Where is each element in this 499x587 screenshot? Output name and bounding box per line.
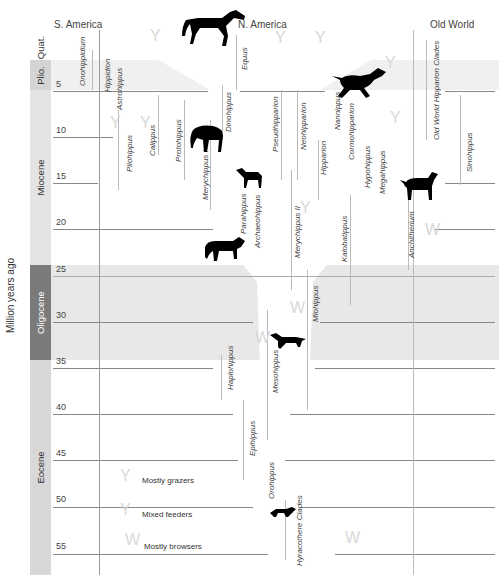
epoch-plio-label: Plio. (30, 60, 51, 90)
genus-haplohippus: Haplohippus (226, 346, 235, 390)
lineage-onohippidium (92, 50, 93, 90)
horse-nannippus-icon (330, 66, 388, 100)
epoch-eocene-label: Eocene (30, 360, 51, 575)
legend-grazer-icon: Y (120, 468, 131, 484)
gridline-5 (53, 91, 208, 92)
lineage-haplohippus (221, 355, 222, 400)
lineage-protohippus (184, 100, 185, 180)
lineage-calippus (158, 95, 159, 155)
gridline-40b (290, 414, 495, 415)
horse-mesohippus-icon (268, 331, 308, 351)
gridline-20 (53, 229, 213, 230)
region-s-america: S. America (54, 19, 102, 30)
genus-hipparion: Hipparion (319, 141, 328, 175)
genus-parahippus: Parahippus (239, 194, 248, 234)
tick-5: 5 (56, 79, 61, 89)
genus-miohippus: Miohippus (311, 286, 320, 322)
lineage-epihippus (243, 400, 244, 480)
legend-browser-icon: W (125, 532, 140, 548)
genus-astrohippus: Astrohippus (115, 68, 124, 110)
gridline-5b (240, 91, 325, 92)
genus-anchitherium: Anchitherium (407, 211, 416, 258)
epoch-oligocene-label: Oligocene (30, 265, 51, 360)
legend-mixed-icon: Y (120, 502, 131, 518)
genus-hypohippus: Hypohippus (363, 146, 372, 188)
gridline-15 (53, 183, 98, 184)
genus-sinohippus: Sinohippus (465, 132, 474, 172)
tick-50: 50 (56, 494, 66, 504)
lineage-merychippus2 (291, 170, 292, 290)
genus-kalobatippus: Kalobatippus (340, 216, 349, 262)
gridline-25 (53, 276, 495, 277)
mixed-feeder-icon: Y (390, 110, 401, 126)
tick-20: 20 (56, 217, 66, 227)
horse-hypohippus-icon (398, 170, 440, 202)
genus-hippidion: Hippidion (103, 59, 112, 92)
legend-mixed: Mixed feeders (142, 510, 192, 519)
lineage-kalobatippus (350, 195, 351, 305)
gridline-55b (335, 554, 495, 555)
genus-protohippus: Protohippus (174, 119, 183, 162)
genus-onohippidium: Onohippidium (78, 37, 87, 86)
divider-s-america (99, 30, 100, 575)
lineage-sinohippus (460, 95, 461, 185)
epoch-quat-label: Quat. (30, 35, 51, 60)
grazer-icon: Y (315, 30, 326, 46)
gridline-10 (53, 137, 113, 138)
gridline-30b (320, 322, 495, 323)
gridline-5c (445, 91, 495, 92)
genus-megahippus: Megahippus (378, 150, 387, 194)
lineage-neohipparion (297, 90, 298, 180)
genus-equus: Equus (240, 47, 249, 70)
genus-epihippus: Epihippus (248, 421, 257, 456)
genus-merychippus1: Merychippus I (201, 150, 210, 200)
tick-35: 35 (56, 356, 66, 366)
grazer-icon: Y (150, 28, 161, 44)
genus-cormohipparion: Cormohipparion (347, 103, 356, 160)
gridline-40 (53, 414, 233, 415)
horse-archaeohippus-icon (203, 233, 247, 263)
horse-hyracothere-icon (268, 505, 298, 519)
browser-icon: W (425, 222, 440, 238)
tick-15: 15 (56, 171, 66, 181)
horse-merychippus-icon (189, 124, 227, 154)
gridline-45 (53, 460, 238, 461)
browser-icon: W (345, 530, 360, 546)
genus-mesohippus: Mesohippus (271, 350, 280, 393)
horse-equus-icon (178, 6, 248, 48)
divider-old-world (413, 30, 414, 575)
grazer-icon: Y (275, 30, 286, 46)
epoch-miocene-label: Miocene (30, 90, 51, 265)
genus-owhc: Old World Hipparion Clades (432, 41, 441, 140)
tick-45: 45 (56, 448, 66, 458)
tick-10: 10 (56, 125, 66, 135)
gridline-45b (285, 460, 495, 461)
gridline-30 (53, 322, 253, 323)
lineage-owhc (426, 40, 427, 140)
gridline-50 (53, 507, 253, 508)
gridline-15b (445, 183, 495, 184)
genus-neohipparion: Neohipparion (299, 102, 308, 150)
horse-parahippus-icon (234, 166, 264, 190)
grazer-icon: Y (140, 115, 151, 131)
gridline-35 (53, 368, 213, 369)
genus-pliohippus: Pliohippus (125, 135, 134, 172)
genus-orohippus: Orohippus (267, 462, 276, 499)
browser-icon: W (290, 300, 305, 316)
genus-pseudhipparion: Pseudhipparion (271, 96, 280, 152)
tick-30: 30 (56, 310, 66, 320)
tick-40: 40 (56, 402, 66, 412)
grazer-icon: Y (110, 115, 121, 131)
legend-browsers: Mostly browsers (144, 542, 202, 551)
gridline-50b (300, 507, 495, 508)
legend-grazers: Mostly grazers (142, 476, 194, 485)
y-axis-label: Million years ago (5, 256, 16, 336)
mixed-feeder-icon: Y (300, 200, 311, 216)
tick-55: 55 (56, 541, 66, 551)
lineage-pseudhipparion (281, 90, 282, 180)
gridline-20b (435, 229, 495, 230)
genus-archaeohippus: Archaeohippus (253, 195, 262, 248)
region-old-world: Old World (430, 19, 474, 30)
gridline-35b (315, 368, 495, 369)
gridline-55 (53, 554, 268, 555)
